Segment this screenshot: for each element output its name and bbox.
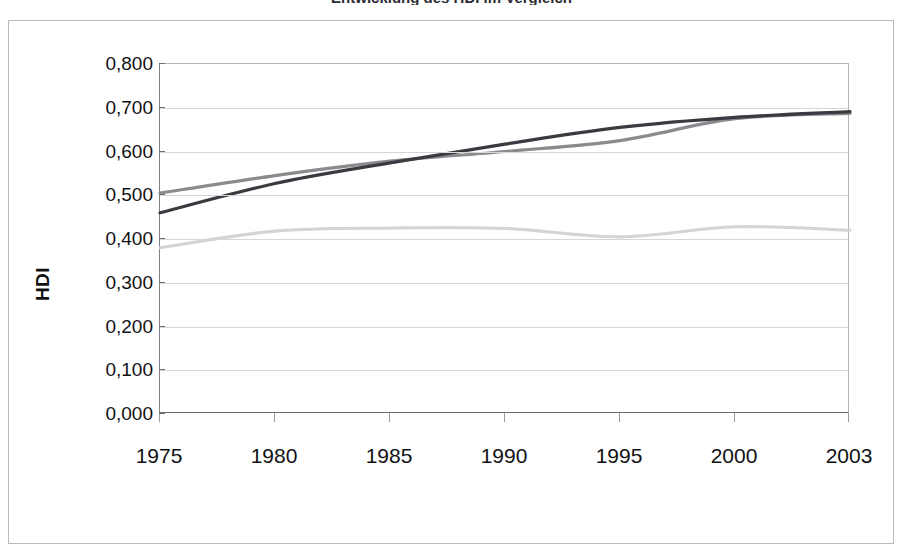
y-axis-tick-mark — [159, 194, 165, 195]
y-axis-tick-mark — [159, 63, 165, 64]
gridline — [160, 370, 848, 371]
y-axis-tick-mark — [159, 238, 165, 239]
y-axis-tick-mark — [159, 369, 165, 370]
y-axis-tick-mark — [159, 413, 165, 414]
x-axis-tick-mark — [274, 413, 275, 422]
x-axis-tick-label: 1985 — [334, 445, 444, 466]
x-axis-tick-mark — [389, 413, 390, 422]
series-line — [160, 113, 850, 193]
x-axis-tick-mark — [848, 413, 849, 422]
y-axis-tick-mark — [159, 282, 165, 283]
y-axis-tick-label: 0,600 — [67, 141, 153, 160]
x-axis-tick-label: 2000 — [679, 445, 789, 466]
x-axis-tick-label: 2003 — [794, 445, 903, 466]
y-axis-tick-labels: 0,0000,1000,2000,3000,4000,5000,6000,700… — [57, 63, 153, 413]
y-axis-tick-mark — [159, 326, 165, 327]
y-axis-tick-label: 0,700 — [67, 97, 153, 116]
y-axis-tick-label: 0,400 — [67, 229, 153, 248]
x-axis-tick-marks — [159, 413, 849, 423]
chart-title-cropped: Entwicklung des HDI im Vergleich — [0, 0, 903, 5]
x-axis-tick-mark — [619, 413, 620, 422]
series-line — [160, 112, 850, 213]
y-axis-tick-label: 0,200 — [67, 316, 153, 335]
x-axis-tick-label: 1980 — [219, 445, 329, 466]
gridline — [160, 108, 848, 109]
y-axis-tick-label: 0,800 — [67, 54, 153, 73]
gridline — [160, 195, 848, 196]
x-axis-tick-label: 1995 — [564, 445, 674, 466]
x-axis-tick-label: 1975 — [104, 445, 214, 466]
gridline — [160, 283, 848, 284]
y-axis-tick-mark — [159, 107, 165, 108]
plot-area — [159, 63, 849, 413]
x-axis-tick-mark — [159, 413, 160, 422]
chart-frame: HDI 0,0000,1000,2000,3000,4000,5000,6000… — [8, 20, 894, 544]
x-axis-tick-label: 1990 — [449, 445, 559, 466]
x-axis-tick-mark — [504, 413, 505, 422]
y-axis-tick-label: 0,500 — [67, 185, 153, 204]
y-axis-tick-label: 0,300 — [67, 272, 153, 291]
x-axis-tick-labels: 1975198019851990199520002003 — [159, 445, 849, 475]
x-axis-tick-mark — [734, 413, 735, 422]
gridline — [160, 152, 848, 153]
y-axis-tick-label: 0,000 — [67, 404, 153, 423]
gridline — [160, 239, 848, 240]
y-axis-title-text: HDI — [32, 267, 54, 301]
y-axis-tick-mark — [159, 151, 165, 152]
y-axis-tick-label: 0,100 — [67, 360, 153, 379]
chart-screenshot: Entwicklung des HDI im Vergleich HDI 0,0… — [0, 0, 903, 554]
legend: Quelle: UNDP 2005 BolivienElfenbeinküste… — [17, 503, 903, 554]
series-line — [160, 227, 850, 248]
gridline — [160, 327, 848, 328]
